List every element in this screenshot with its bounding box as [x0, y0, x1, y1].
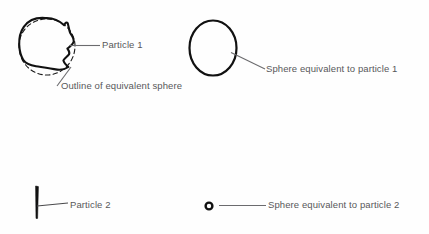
label-particle-2: Particle 2 [70, 199, 111, 210]
label-sphere-equivalent-to-particle-1: Sphere equivalent to particle 1 [266, 63, 397, 74]
equivalent-sphere-diagram: Particle 1 Outline of equivalent sphere … [0, 0, 429, 234]
label-outline-of-equivalent-sphere: Outline of equivalent sphere [61, 80, 182, 91]
leader-line-sphere-equivalent-1 [231, 53, 265, 70]
leader-line-particle-2 [37, 203, 68, 206]
label-sphere-equivalent-to-particle-2: Sphere equivalent to particle 2 [268, 199, 399, 210]
circle-outline-icon [190, 21, 237, 76]
label-particle-1: Particle 1 [102, 39, 143, 50]
small-circle-outline-icon [206, 203, 213, 210]
needle-sliver-shape-icon [36, 186, 39, 218]
